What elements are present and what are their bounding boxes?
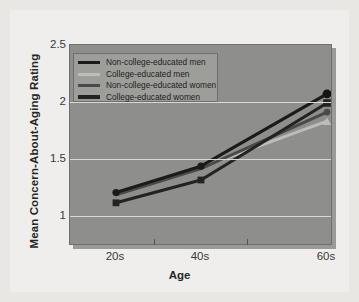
figure-container: Mean Concern-About-Aging Rating 2.5 2 1.…	[0, 0, 359, 302]
legend-item-college-educated-women: College-educated women	[78, 92, 213, 103]
legend-swatch-icon-non-college-women	[78, 84, 100, 87]
gridline-1.5	[70, 159, 331, 160]
x-tick-label-60s: 60s	[296, 250, 356, 262]
legend-swatch-icon-college-women	[78, 95, 100, 98]
legend-label-non-college-educated-men: Non-college-educated men	[106, 58, 206, 66]
marker-non-college-men-60s	[323, 90, 332, 99]
marker-college-women-40s	[198, 177, 205, 184]
marker-college-women-60s	[323, 99, 331, 107]
y-axis-title: Mean Concern-About-Aging Rating	[28, 51, 40, 251]
legend-label-college-educated-men: College-educated men	[106, 70, 189, 78]
legend: Non-college-educated men College-educate…	[73, 53, 218, 102]
y-tick-label-1: 1	[24, 209, 66, 221]
marker-non-college-women-60s	[324, 109, 331, 116]
y-tick-label-1.5: 1.5	[24, 152, 66, 164]
legend-swatch-icon-college-men	[78, 73, 100, 76]
legend-item-non-college-educated-women: Non-college-educated women	[78, 80, 213, 91]
legend-label-college-educated-women: College-educated women	[106, 93, 200, 101]
legend-label-non-college-educated-women: Non-college-educated women	[106, 81, 216, 89]
y-tick-label-2: 2	[24, 95, 66, 107]
legend-swatch-icon-non-college-men	[78, 61, 100, 64]
y-tick-label-2.5: 2.5	[24, 38, 66, 50]
marker-non-college-men-40s	[197, 163, 204, 170]
x-tick-label-20s: 20s	[85, 250, 145, 262]
x-tick-label-40s: 40s	[170, 250, 230, 262]
legend-item-non-college-educated-men: Non-college-educated men	[78, 57, 213, 68]
marker-non-college-men-20s	[112, 189, 119, 196]
x-axis-title: Age	[0, 269, 359, 281]
plot-area: Non-college-educated men College-educate…	[69, 44, 332, 245]
series-line-non-college-educated-men	[116, 94, 327, 193]
legend-item-college-educated-men: College-educated men	[78, 69, 213, 80]
gridline-1	[70, 216, 331, 217]
marker-college-women-20s	[113, 199, 120, 206]
